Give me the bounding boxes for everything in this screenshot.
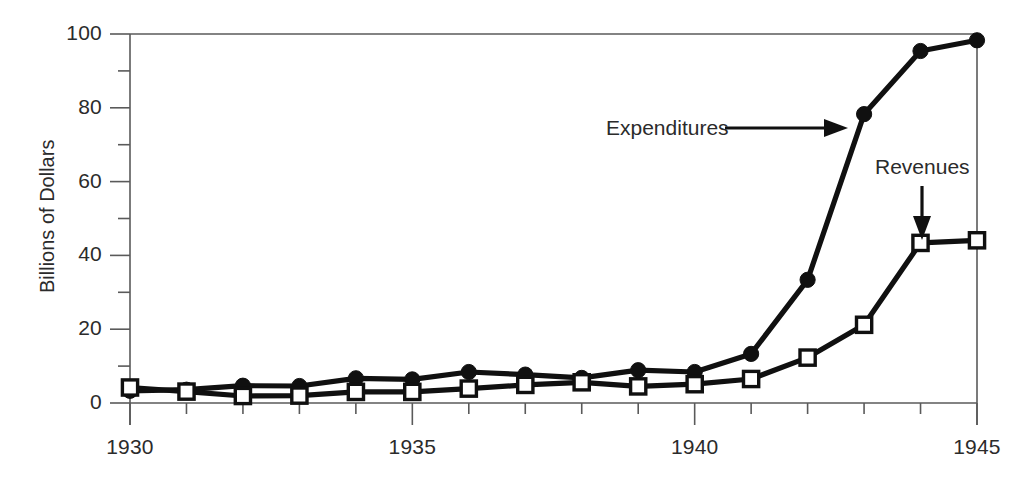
data-point-revenues: [744, 371, 759, 386]
chart-figure: 020406080100 1930193519401945 Billions o…: [0, 0, 1017, 481]
series-line-expenditures: [130, 40, 977, 391]
data-point-expenditures: [969, 33, 984, 48]
data-point-revenues: [348, 384, 363, 399]
data-point-revenues: [913, 235, 928, 250]
data-series: [122, 33, 984, 404]
data-point-revenues: [179, 384, 194, 399]
x-tick-label: 1940: [671, 435, 719, 459]
data-point-expenditures: [631, 363, 646, 378]
expenditures-arrow-head: [824, 119, 848, 137]
data-point-revenues: [631, 379, 646, 394]
data-point-expenditures: [461, 364, 476, 379]
y-tick-label: 40: [78, 242, 102, 266]
data-point-revenues: [969, 233, 984, 248]
x-tick-label: 1930: [106, 435, 154, 459]
y-tick-label: 0: [90, 390, 102, 414]
data-point-revenues: [687, 377, 702, 392]
data-point-revenues: [857, 317, 872, 332]
data-point-revenues: [518, 377, 533, 392]
data-point-revenues: [574, 375, 589, 390]
y-tick-label: 80: [78, 95, 102, 119]
data-point-expenditures: [744, 346, 759, 361]
y-tick-label: 60: [78, 169, 102, 193]
y-axis-title: Billions of Dollars: [36, 140, 59, 293]
y-tick-label: 20: [78, 316, 102, 340]
axes: [110, 34, 977, 425]
data-point-expenditures: [857, 107, 872, 122]
y-tick-label: 100: [66, 21, 102, 45]
x-tick-label: 1945: [953, 435, 1001, 459]
annotation-label-expenditures: Expenditures: [606, 116, 729, 140]
data-point-expenditures: [800, 272, 815, 287]
data-point-revenues: [292, 388, 307, 403]
data-point-expenditures: [913, 43, 928, 58]
data-point-revenues: [122, 380, 137, 395]
data-point-revenues: [235, 388, 250, 403]
annotation-label-revenues: Revenues: [875, 155, 970, 179]
x-tick-label: 1935: [389, 435, 437, 459]
data-point-revenues: [461, 381, 476, 396]
data-point-revenues: [800, 350, 815, 365]
series-line-revenues: [130, 240, 977, 396]
chart-plot-area: [0, 0, 1017, 481]
data-point-revenues: [405, 384, 420, 399]
